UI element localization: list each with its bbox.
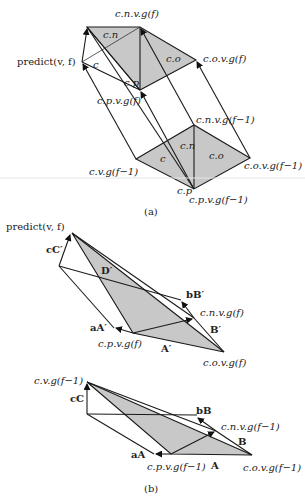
label-B-prime: B′ [210,324,221,335]
label-A-prime: A′ [160,343,172,354]
arrow-predict-up [82,29,87,62]
lower-shaded-diamond [136,125,250,189]
label-cpvgf1-b: c.p.v.g(f−1) [147,461,206,472]
label-covgf-b: c.o.v.g(f) [203,357,246,368]
label-covgf-a: c.o.v.g(f) [203,53,246,64]
region-cp-top: c.p [124,77,140,88]
label-cnvgf1-a: c.n.v.g(f−1) [196,114,255,125]
region-cn-bot: c.n [180,140,195,151]
caption-a: (a) [144,206,158,217]
region-cn-top: c.n [103,29,118,40]
label-cvgf1-a: c.v.g(f−1) [89,166,138,177]
label-cnvgf-b: c.n.v.g(f) [200,307,244,318]
diagram-canvas: predict(v, f) c.n.v.g(f) c.o.v.g(f) c.p.… [0,0,305,504]
label-B: B [238,436,246,447]
region-co-top: c.o [166,53,181,64]
figure-b-upper: predict(v, f) cC′ D′ bB′ c.n.v.g(f) B′ a… [6,221,246,368]
label-cpvgf1-a: c.p.v.g(f−1) [189,194,248,205]
label-predict-a: predict(v, f) [17,56,76,67]
label-cnvgf-a: c.n.v.g(f) [115,8,159,19]
label-aA: aA [131,449,145,460]
caption-b: (b) [144,483,158,494]
label-cpvgf-b: c.p.v.g(f) [98,338,142,349]
figure-b-lower: c.v.g(f−1) cC bB c.n.v.g(f−1) B aA c.p.v… [34,375,301,494]
figure-a: predict(v, f) c.n.v.g(f) c.o.v.g(f) c.p.… [17,8,302,217]
lower-shaded-triangle [87,382,252,455]
arrow-bB [198,418,216,431]
label-cnvgf1-b: c.n.v.g(f−1) [221,421,280,432]
label-cC: cC [70,393,84,404]
label-A: A [210,460,219,471]
label-cpvgf-a: c.p.v.g(f) [97,95,141,106]
label-aA-prime: aA′ [90,322,107,333]
label-D-prime: D′ [101,265,113,276]
region-c-top: c [93,59,99,70]
region-cp-bot: c.p [177,185,193,196]
label-cvgf1-b: c.v.g(f−1) [34,375,83,386]
label-covgf1-a: c.o.v.g(f−1) [244,160,302,171]
label-bB-prime: bB′ [186,289,204,300]
label-bB: bB [196,405,211,416]
region-co-bot: c.o [209,150,224,161]
edge-left-to-bB [87,414,197,415]
region-c-bot: c [160,153,166,164]
label-predict-b: predict(v, f) [6,221,65,232]
arrow-bB-prime [182,302,194,318]
label-covgf1-b: c.o.v.g(f−1) [243,462,301,473]
label-cC-prime: cC′ [46,244,63,255]
